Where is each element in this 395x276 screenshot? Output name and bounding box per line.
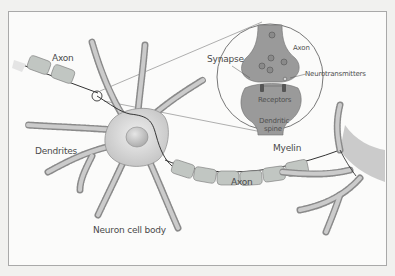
label-myelin: Myelin	[273, 143, 301, 153]
label-dendrites: Dendrites	[35, 146, 77, 156]
neuron-diagram	[0, 0, 395, 276]
label-dendritic-spine-line1: Dendritic	[259, 117, 287, 125]
nucleus	[126, 127, 148, 147]
label-dendritic-spine-line2: spine	[259, 125, 287, 133]
label-neuron-cell-body: Neuron cell body	[93, 225, 166, 235]
label-synapse-axon: Axon	[293, 44, 310, 52]
label-neurotransmitters: Neurotransmitters	[305, 70, 366, 78]
label-axon-bottom: Axon	[231, 177, 253, 187]
label-axon-left: Axon	[52, 53, 74, 63]
label-dendritic-spine: Dendritic spine	[259, 117, 287, 133]
released-neurotransmitter	[283, 77, 287, 81]
label-receptors: Receptors	[258, 96, 291, 104]
label-synapse: Synapse	[207, 54, 244, 64]
